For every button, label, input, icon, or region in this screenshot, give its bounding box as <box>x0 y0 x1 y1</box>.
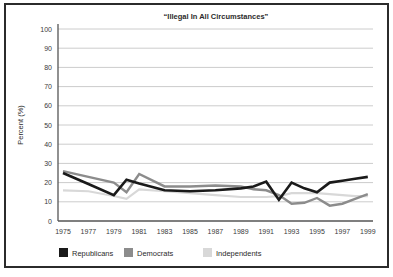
x-tick-label-1997: 1997 <box>335 228 351 235</box>
x-tick-label-1991: 1991 <box>258 228 274 235</box>
legend-swatch-republicans <box>59 248 68 257</box>
y-tick-label-20: 20 <box>44 179 52 186</box>
y-tick-label-10: 10 <box>44 198 52 205</box>
x-tick-label-1987: 1987 <box>208 228 224 235</box>
legend: Republicans Democrats Independents <box>59 248 262 258</box>
line-chart: “Illegal In All Circumstances” Percent (… <box>0 0 393 277</box>
x-tick-label-1993: 1993 <box>284 228 300 235</box>
legend-swatch-independents <box>203 248 212 257</box>
y-tick-label-60: 60 <box>44 102 52 109</box>
x-axis-tick-labels: 1975197719791981198319851987198919911993… <box>55 228 375 235</box>
x-tick-label-1989: 1989 <box>233 228 249 235</box>
gridlines <box>58 29 373 202</box>
y-tick-label-50: 50 <box>44 122 52 129</box>
x-tick-label-1975: 1975 <box>55 228 71 235</box>
x-tick-label-1977: 1977 <box>81 228 97 235</box>
x-tick-label-1979: 1979 <box>106 228 122 235</box>
y-tick-label-80: 80 <box>44 64 52 71</box>
x-tick-label-1983: 1983 <box>157 228 173 235</box>
x-tick-label-1985: 1985 <box>182 228 198 235</box>
legend-label-republicans: Republicans <box>72 249 114 258</box>
y-tick-label-70: 70 <box>44 83 52 90</box>
legend-label-democrats: Democrats <box>137 249 174 258</box>
y-tick-label-30: 30 <box>44 160 52 167</box>
y-tick-label-0: 0 <box>48 218 52 225</box>
legend-swatch-democrats <box>124 248 133 257</box>
y-axis-label: Percent (%) <box>16 105 25 145</box>
x-tick-label-1995: 1995 <box>309 228 325 235</box>
legend-label-independents: Independents <box>216 249 262 258</box>
y-axis-tick-labels: 0102030405060708090100 <box>40 26 52 225</box>
series-lines <box>63 171 368 206</box>
y-tick-label-100: 100 <box>40 26 52 33</box>
x-tick-label-1981: 1981 <box>131 228 147 235</box>
chart-title: “Illegal In All Circumstances” <box>164 12 269 21</box>
x-tick-label-1999: 1999 <box>360 228 376 235</box>
y-tick-label-90: 90 <box>44 45 52 52</box>
y-tick-label-40: 40 <box>44 141 52 148</box>
chart-page: “Illegal In All Circumstances” Percent (… <box>0 0 393 277</box>
